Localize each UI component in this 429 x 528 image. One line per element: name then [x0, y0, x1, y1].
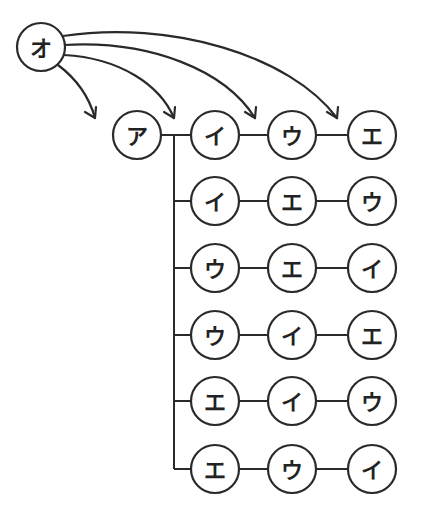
tree-node: イ [348, 244, 396, 292]
start-node-a: ア [113, 111, 161, 159]
node-label: ウ [281, 124, 303, 149]
tree-node: ウ [268, 445, 316, 493]
permutation-row: エイウ [191, 377, 396, 425]
node-label: ウ [204, 257, 226, 282]
tree-node: ウ [348, 177, 396, 225]
tree-node: エ [268, 244, 316, 292]
tree-node: エ [191, 445, 239, 493]
node-label: ウ [204, 324, 226, 349]
arrow-line [64, 44, 255, 118]
permutation-row: ウイエ [191, 311, 396, 359]
tree-node: イ [268, 311, 316, 359]
tree-node: エ [191, 377, 239, 425]
node-label: ウ [361, 190, 383, 215]
tree-node: エ [348, 111, 396, 159]
node-label: ウ [281, 458, 303, 483]
permutation-row: イウエ [191, 111, 396, 159]
permutation-row: ウエイ [191, 244, 396, 292]
node-label: エ [281, 257, 303, 282]
permutation-row: エウイ [191, 445, 396, 493]
edges [161, 135, 348, 469]
node-label: イ [361, 458, 383, 483]
node-label: イ [204, 124, 226, 149]
arrow-line [58, 65, 95, 118]
tree-node: イ [268, 377, 316, 425]
node-label: イ [361, 257, 383, 282]
permutation-row: イエウ [191, 177, 396, 225]
tree-node: ウ [348, 377, 396, 425]
node-label: ア [126, 124, 148, 149]
node-label: イ [281, 390, 303, 415]
tree-node: ウ [268, 111, 316, 159]
tree-node: イ [191, 177, 239, 225]
node-label: エ [204, 390, 226, 415]
permutation-tree-diagram: オアイウエイエウウエイウイエエイウエウイ [0, 0, 429, 528]
node-label: エ [361, 124, 383, 149]
root-arrows [58, 32, 338, 118]
node-label: イ [281, 324, 303, 349]
tree-node: ウ [191, 311, 239, 359]
tree-node: イ [348, 445, 396, 493]
tree-node: イ [191, 111, 239, 159]
root-node-o: オ [17, 23, 65, 71]
node-label: ウ [361, 390, 383, 415]
tree-node: ウ [191, 244, 239, 292]
tree-node: エ [268, 177, 316, 225]
node-label: イ [204, 190, 226, 215]
node-label: オ [30, 36, 52, 61]
node-label: エ [204, 458, 226, 483]
tree-node: エ [348, 311, 396, 359]
node-label: エ [361, 324, 383, 349]
node-label: エ [281, 190, 303, 215]
